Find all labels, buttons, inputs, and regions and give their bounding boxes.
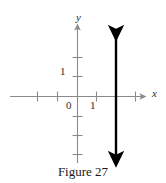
x-axis-label: x xyxy=(152,88,157,99)
figure-caption: Figure 27 xyxy=(0,165,166,178)
coordinate-plane-graphic xyxy=(0,0,166,183)
figure-container: y x 0 1 1 Figure 27 xyxy=(0,0,166,183)
x-axis xyxy=(10,92,143,102)
y-axis xyxy=(73,27,83,163)
x-axis-tick-label-1: 1 xyxy=(90,100,96,111)
y-axis-label: y xyxy=(76,12,81,23)
origin-label: 0 xyxy=(66,100,72,111)
y-axis-tick-label-1: 1 xyxy=(60,66,66,77)
